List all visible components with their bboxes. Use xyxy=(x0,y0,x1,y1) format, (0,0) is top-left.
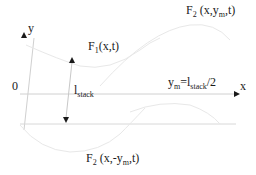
y-axis-label: y xyxy=(28,22,34,34)
y-axis xyxy=(24,38,34,130)
x-axis-label: x xyxy=(240,80,246,92)
curve-f1-lower-part xyxy=(130,104,220,124)
f2-upper-label: F2 (x,ym,t) xyxy=(186,4,235,19)
f1-label: F1(x,t) xyxy=(88,40,119,55)
curve-f2-lower xyxy=(20,108,145,152)
ym-equation-label: ym=lstack/2 xyxy=(168,76,216,91)
lstack-up-arrowhead-icon xyxy=(69,57,75,63)
y-axis-arrowhead-icon xyxy=(21,32,27,38)
lstack-dimension-line xyxy=(66,62,72,118)
origin-label: 0 xyxy=(12,80,18,92)
lstack-label: lstack xyxy=(74,84,94,99)
diagram-canvas xyxy=(0,0,256,175)
f2-lower-label: F2 (x,-ym,t) xyxy=(86,152,139,167)
lstack-down-arrowhead-icon xyxy=(63,117,69,123)
